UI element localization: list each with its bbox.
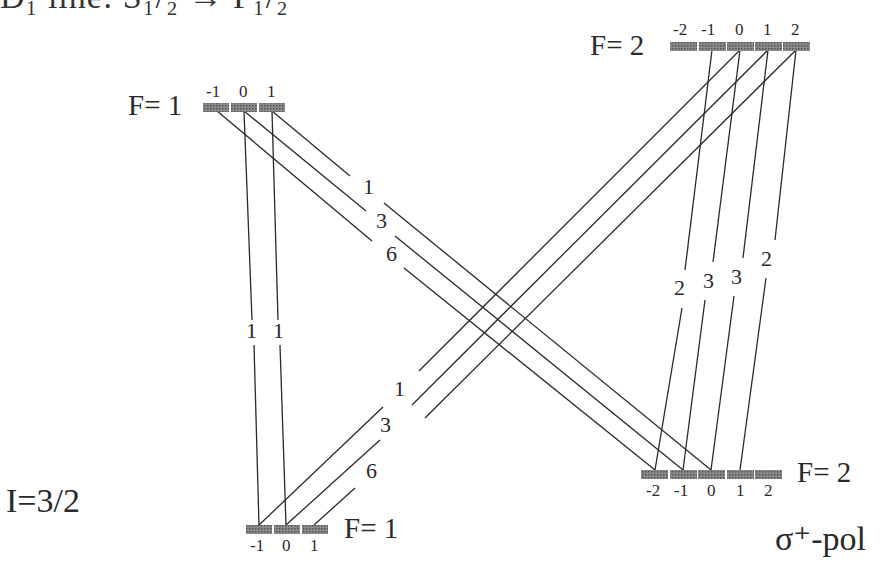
strength-label: 3 bbox=[702, 270, 715, 292]
line-uF2-1-lF2-0-b bbox=[711, 296, 734, 470]
upper-F2-m-1-bar bbox=[699, 42, 726, 51]
lower-F2-m-label: -1 bbox=[674, 482, 688, 499]
level-bars bbox=[203, 42, 810, 534]
line-uF1-1-lF1-0-a bbox=[272, 111, 278, 320]
strength-label: 3 bbox=[375, 210, 388, 232]
strength-label: 2 bbox=[760, 248, 773, 270]
line-uF1-0-lF1--1-b bbox=[254, 345, 259, 525]
line-uF2--1-lF2--2-a bbox=[685, 50, 712, 270]
line-uF1--1-lF2--2-b bbox=[404, 268, 655, 470]
line-uF2--1-lF2--2-b bbox=[655, 308, 682, 470]
upper-F2-m-label: 2 bbox=[791, 21, 800, 38]
lower-F2-label: F= 2 bbox=[797, 458, 851, 487]
upper-F1-label: F= 1 bbox=[128, 91, 182, 120]
strength-label: 1 bbox=[362, 176, 375, 198]
lower-F1-m-label: 0 bbox=[282, 537, 291, 554]
upper-F1-m1-bar bbox=[259, 103, 285, 112]
lower-F2-m2-bar bbox=[755, 470, 782, 479]
lower-F2-m0-bar bbox=[698, 470, 725, 479]
strength-label: 6 bbox=[385, 243, 398, 265]
line-uF2-2-lF2-1-b bbox=[740, 278, 766, 470]
strength-label: 1 bbox=[393, 378, 406, 400]
strength-label: 2 bbox=[673, 277, 686, 299]
lower-F2-m-label: 1 bbox=[736, 482, 745, 499]
lower-F2-m-2-bar bbox=[641, 470, 668, 479]
polarization-label: σ⁺-pol bbox=[775, 522, 866, 556]
upper-F2-m-label: 1 bbox=[763, 21, 772, 38]
upper-F2-m-label: -2 bbox=[673, 21, 687, 38]
lower-F1-m-label: -1 bbox=[250, 537, 264, 554]
lower-F2-m-label: 2 bbox=[764, 482, 773, 499]
line-uF2-2-lF1-1-a bbox=[425, 50, 796, 418]
strength-label: 1 bbox=[245, 320, 258, 342]
lower-F1-label: F= 1 bbox=[344, 514, 398, 543]
strength-label: 3 bbox=[379, 414, 392, 436]
lower-F1-m1-bar bbox=[302, 525, 328, 534]
lower-F2-m-label: 0 bbox=[707, 482, 716, 499]
upper-F1-m0-bar bbox=[231, 103, 257, 112]
upper-F1-m-label: 0 bbox=[239, 83, 248, 100]
upper-F2-m0-bar bbox=[727, 42, 754, 51]
upper-F2-label: F= 2 bbox=[590, 31, 644, 60]
upper-F1-m-1-bar bbox=[203, 103, 229, 112]
upper-F1-m-label: -1 bbox=[206, 83, 220, 100]
lower-F2-m-label: -2 bbox=[646, 482, 660, 499]
line-uF1-0-lF2--1-b bbox=[395, 236, 683, 470]
strength-label: 6 bbox=[365, 460, 378, 482]
nuclear-spin-label: I=3/2 bbox=[6, 484, 80, 518]
upper-F2-m1-bar bbox=[755, 42, 782, 51]
line-uF2-1-lF1-0-a bbox=[412, 50, 768, 405]
line-uF1-0-lF2--1-a bbox=[244, 111, 366, 211]
upper-F1-m-label: 1 bbox=[267, 83, 276, 100]
line-uF1-1-lF1-0-b bbox=[280, 345, 286, 525]
lower-F1-m-label: 1 bbox=[310, 537, 319, 554]
upper-F2-m-label: 0 bbox=[735, 21, 744, 38]
line-uF2-2-lF2-1-a bbox=[775, 50, 796, 240]
lower-F1-m0-bar bbox=[274, 525, 300, 534]
strength-label: 3 bbox=[730, 266, 743, 288]
strength-label: 1 bbox=[272, 320, 285, 342]
upper-F2-m-2-bar bbox=[670, 42, 697, 51]
line-uF1-0-lF1--1-a bbox=[244, 111, 252, 320]
lower-F2-m-1-bar bbox=[670, 470, 697, 479]
upper-F2-m-label: -1 bbox=[701, 21, 715, 38]
level-diagram bbox=[0, 0, 894, 570]
upper-F2-m2-bar bbox=[783, 42, 810, 51]
lower-F1-m-1-bar bbox=[246, 525, 272, 534]
line-uF2-0-lF2--1-b bbox=[683, 300, 705, 470]
lower-F2-m1-bar bbox=[727, 470, 754, 479]
